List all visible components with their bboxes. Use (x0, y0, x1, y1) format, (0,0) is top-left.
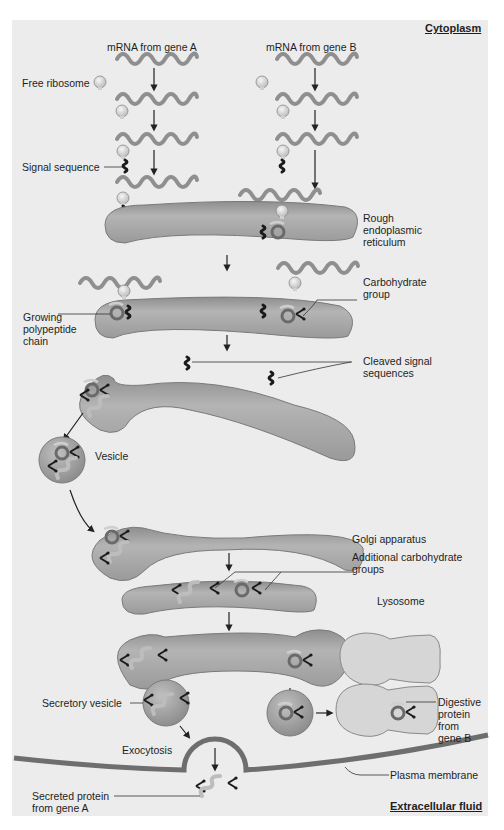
label-growing-polypeptide: Growingpolypeptidechain (23, 311, 77, 347)
label-free-ribosome: Free ribosome (22, 77, 90, 89)
label-rough-er: Roughendoplasmicreticulum (363, 212, 422, 248)
label-plasma-membrane: Plasma membrane (390, 769, 478, 781)
label-golgi: Golgi apparatus (352, 533, 426, 545)
region-label-extracellular-fluid: Extracellular fluid (390, 800, 482, 812)
label-cleaved-signal: Cleaved signalsequences (363, 355, 432, 379)
header-gene-a: mRNA from gene A (107, 41, 197, 53)
label-secretory-vesicle: Secretory vesicle (42, 697, 122, 709)
label-secreted-protein: Secreted proteinfrom gene A (32, 790, 109, 814)
golgi-sac-3 (118, 630, 351, 689)
rough-er-1 (105, 201, 358, 243)
label-additional-carbohydrate: Additional carbohydrategroups (352, 551, 462, 575)
rough-er-2 (95, 297, 353, 338)
golgi-sac-2 (122, 581, 316, 614)
header-gene-b: mRNA from gene B (266, 41, 356, 53)
label-exocytosis: Exocytosis (122, 744, 172, 756)
label-lysosome: Lysosome (377, 595, 424, 607)
plasma-membrane (14, 735, 488, 770)
lysosome-with-protein (336, 684, 438, 736)
label-signal-sequence: Signal sequence (22, 161, 100, 173)
label-vesicle: Vesicle (95, 450, 128, 462)
mrna-gene-a-row1 (117, 53, 197, 64)
label-digestive-protein: Digestiveproteinfromgene B (438, 696, 481, 744)
golgi-sac-1 (92, 527, 363, 580)
lysosome (340, 633, 440, 685)
region-label-cytoplasm: Cytoplasm (425, 22, 481, 34)
signal-sequence-icon (123, 160, 127, 172)
label-carbohydrate-group: Carbohydrategroup (363, 276, 427, 300)
er-budding-vesicle (80, 375, 355, 460)
ribosome-icon (94, 76, 106, 90)
lysosome-vesicle (267, 690, 313, 736)
